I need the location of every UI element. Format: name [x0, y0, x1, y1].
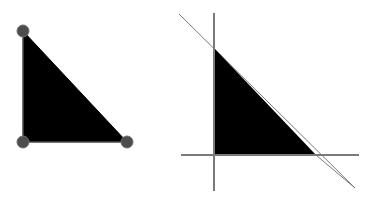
- left-panel-group: [17, 25, 133, 148]
- left-triangle-shape: [23, 31, 127, 142]
- geometry-figure-svg: [0, 0, 374, 205]
- figure-canvas: [0, 0, 374, 205]
- right-extended-line-diagonal: [179, 14, 355, 188]
- right-triangle-shape: [214, 48, 316, 155]
- left-triangle-vertex-b-marker[interactable]: [17, 136, 29, 148]
- left-triangle-vertex-a-marker[interactable]: [17, 25, 29, 37]
- right-panel-group: [179, 13, 359, 191]
- left-triangle-vertex-c-marker[interactable]: [121, 136, 133, 148]
- right-extended-line-diagonal-overlay: [316, 155, 355, 188]
